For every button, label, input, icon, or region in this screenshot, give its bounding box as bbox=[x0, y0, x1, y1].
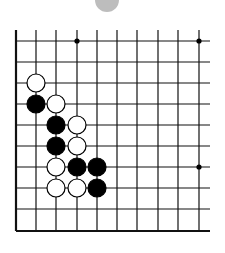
white-stone bbox=[68, 137, 86, 155]
black-stone bbox=[88, 179, 106, 197]
white-stone bbox=[27, 74, 45, 92]
star-point bbox=[196, 38, 201, 43]
white-stone bbox=[47, 158, 65, 176]
indicator-circle bbox=[95, 0, 119, 12]
white-stone bbox=[47, 179, 65, 197]
star-point bbox=[74, 38, 79, 43]
go-board bbox=[0, 0, 225, 253]
turn-indicator bbox=[95, 0, 119, 12]
stones bbox=[27, 74, 106, 197]
board-grid bbox=[16, 30, 210, 231]
white-stone bbox=[47, 95, 65, 113]
black-stone bbox=[47, 137, 65, 155]
black-stone bbox=[27, 95, 45, 113]
black-stone bbox=[88, 158, 106, 176]
black-stone bbox=[68, 158, 86, 176]
star-point bbox=[196, 164, 201, 169]
black-stone bbox=[47, 116, 65, 134]
white-stone bbox=[68, 179, 86, 197]
white-stone bbox=[68, 116, 86, 134]
